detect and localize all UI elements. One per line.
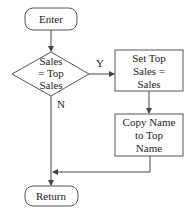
return-node: Return: [25, 186, 78, 206]
set-top-line-1: Set Top: [132, 52, 166, 64]
edge-copy-to-merge: [53, 156, 150, 172]
copy-name-line-2: to Top: [135, 129, 164, 141]
decision-line-3: Sales: [39, 79, 62, 91]
return-label: Return: [36, 190, 66, 202]
set-top-line-3: Sales: [137, 78, 160, 90]
copy-name-node: Copy Name to Top Name: [115, 114, 183, 156]
yes-label: Y: [96, 57, 104, 69]
enter-label: Enter: [39, 13, 63, 25]
decision-node: Sales = Top Sales: [12, 52, 89, 96]
decision-line-2: = Top: [38, 67, 64, 79]
enter-node: Enter: [25, 8, 77, 30]
copy-name-line-3: Name: [136, 142, 162, 154]
set-top-line-2: Sales =: [133, 65, 165, 77]
set-top-sales-node: Set Top Sales = Sales: [115, 50, 183, 91]
decision-line-1: Sales: [39, 55, 62, 67]
copy-name-line-1: Copy Name: [123, 116, 176, 128]
no-label: N: [57, 98, 65, 110]
flowchart: Enter Sales = Top Sales Y Set Top Sales …: [0, 0, 194, 211]
